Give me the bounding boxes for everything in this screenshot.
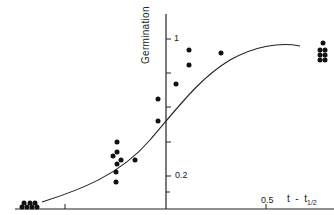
y-tick-label-0.2: 0.2 [175, 170, 188, 180]
x-axis-label-main: t - t [287, 193, 307, 204]
y-axis-label: Germination [140, 6, 151, 64]
x-axis-label-sub: 1/2 [307, 199, 317, 206]
x-axis-label: t - t1/2 [287, 193, 317, 206]
data-points [20, 41, 328, 210]
x-tick-label-0.5: 0.5 [261, 195, 274, 205]
fitted-curve [42, 45, 300, 202]
chart-plot [0, 0, 334, 215]
y-tick-label-1: 1 [174, 33, 179, 43]
